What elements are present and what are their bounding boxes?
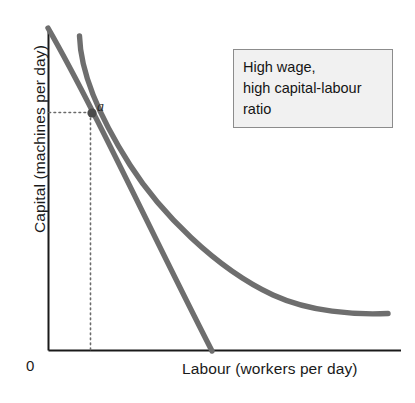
y-axis-label: Capital (machines per day): [31, 29, 49, 249]
x-axis-label: Labour (workers per day): [182, 360, 358, 378]
annotation-line-3: ratio: [243, 99, 392, 120]
annotation-line-2: high capital-labour: [243, 78, 392, 99]
annotation-line-1: High wage,: [243, 57, 392, 78]
point-a-marker: [87, 108, 96, 117]
economics-isoquant-isocost-figure: a Capital (machines per day) Labour (wor…: [0, 0, 415, 403]
origin-label: 0: [26, 357, 34, 374]
point-a-label: a: [97, 99, 104, 115]
annotation-box: High wage, high capital-labour ratio: [233, 49, 393, 128]
isocost-line-curve: [48, 28, 212, 351]
